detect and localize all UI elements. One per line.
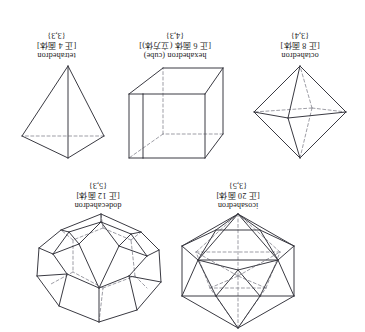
dodecahedron-japanese-label: [正 12 面体] bbox=[27, 190, 169, 200]
hexahedron-caption: hexahedron (cube) [正 6 面体 (立方体)] {4,3} bbox=[109, 30, 241, 60]
tetrahedron-visible-edges bbox=[23, 66, 105, 158]
dodecahedron-schlafli-symbol: {5,3} bbox=[27, 180, 169, 190]
icosahedron-caption: icosahedron [正 20 面体] {3,5} bbox=[173, 180, 303, 210]
tetrahedron-name: tetrahedron bbox=[0, 50, 113, 60]
hexahedron-figure bbox=[109, 60, 241, 164]
octahedron-visible-edges bbox=[254, 66, 346, 158]
hexahedron-japanese-label: [正 6 面体 (立方体)] bbox=[109, 40, 241, 50]
dodecahedron-drawing bbox=[31, 210, 165, 332]
hexahedron-drawing bbox=[125, 60, 225, 164]
solid-cell-tetrahedron: tetrahedron [正 4 面体] {3,3} bbox=[0, 30, 113, 164]
tetrahedron-japanese-label: [正 4 面体] bbox=[0, 40, 113, 50]
dodecahedron-visible-edges bbox=[37, 214, 161, 322]
hexahedron-visible-edges bbox=[129, 68, 223, 158]
octahedron-name: octahedron bbox=[237, 50, 363, 60]
dodecahedron-figure bbox=[27, 210, 169, 332]
hexahedron-schlafli-symbol: {4,3} bbox=[109, 30, 241, 40]
icosahedron-schlafli-symbol: {3,5} bbox=[173, 180, 303, 190]
octahedron-schlafli-symbol: {3,4} bbox=[237, 30, 363, 40]
solid-cell-dodecahedron: dodecahedron [正 12 面体] {5,3} bbox=[27, 180, 169, 332]
solid-cell-hexahedron: hexahedron (cube) [正 6 面体 (立方体)] {4,3} bbox=[109, 30, 241, 164]
tetrahedron-schlafli-symbol: {3,3} bbox=[0, 30, 113, 40]
tetrahedron-drawing bbox=[7, 60, 107, 164]
octahedron-hidden-edges bbox=[254, 66, 346, 158]
platonic-solids-figure-page: icosahedron [正 20 面体] {3,5} bbox=[0, 0, 365, 332]
icosahedron-japanese-label: [正 20 面体] bbox=[173, 190, 303, 200]
dodecahedron-name: dodecahedron bbox=[27, 200, 169, 210]
icosahedron-figure bbox=[173, 210, 303, 332]
dodecahedron-caption: dodecahedron [正 12 面体] {5,3} bbox=[27, 180, 169, 210]
icosahedron-name: icosahedron bbox=[173, 200, 303, 210]
octahedron-japanese-label: [正 8 面体] bbox=[237, 40, 363, 50]
icosahedron-drawing bbox=[176, 210, 300, 332]
solid-cell-octahedron: octahedron [正 8 面体] {3,4} bbox=[237, 30, 363, 164]
octahedron-drawing bbox=[250, 60, 350, 164]
solid-cell-icosahedron: icosahedron [正 20 面体] {3,5} bbox=[173, 180, 303, 332]
octahedron-caption: octahedron [正 8 面体] {3,4} bbox=[237, 30, 363, 60]
tetrahedron-figure bbox=[0, 60, 113, 164]
tetrahedron-caption: tetrahedron [正 4 面体] {3,3} bbox=[0, 30, 113, 60]
octahedron-figure bbox=[237, 60, 363, 164]
hexahedron-name: hexahedron (cube) bbox=[109, 50, 241, 60]
